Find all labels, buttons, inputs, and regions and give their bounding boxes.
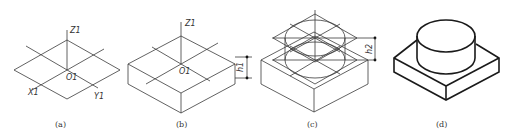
label-x1: X1 bbox=[27, 88, 39, 97]
dim-arrow-top bbox=[246, 56, 249, 59]
box-front-left-top bbox=[394, 58, 446, 86]
box-sides bbox=[261, 60, 368, 112]
dim-arrow-bottom bbox=[246, 77, 249, 80]
panel-b: Z1 O1 h1 (b) bbox=[128, 19, 252, 129]
panel-c: h2 (c) bbox=[261, 10, 376, 129]
cylinder-top bbox=[417, 20, 475, 52]
centerline-y bbox=[32, 49, 104, 90]
centerline-x bbox=[26, 46, 98, 88]
caption-c: (c) bbox=[307, 120, 318, 129]
label-z1: Z1 bbox=[184, 19, 196, 28]
caption-b: (b) bbox=[176, 120, 187, 129]
box-front-right-top bbox=[446, 58, 499, 86]
cylinder-body bbox=[417, 36, 475, 74]
caption-a: (a) bbox=[55, 120, 66, 129]
panel-d: (d) bbox=[394, 20, 499, 129]
label-z1: Z1 bbox=[69, 26, 81, 35]
label-o1: O1 bbox=[179, 67, 190, 76]
caption-d: (d) bbox=[436, 120, 447, 129]
label-h2: h2 bbox=[365, 44, 374, 54]
label-o1: O1 bbox=[66, 73, 77, 82]
label-y1: Y1 bbox=[94, 92, 104, 101]
panel-a: Z1 O1 X1 Y1 (a) bbox=[14, 26, 120, 129]
label-h1: h1 bbox=[236, 62, 245, 72]
isometric-drawing-figure: Z1 O1 X1 Y1 (a) Z1 O1 h1 (b) bbox=[0, 0, 512, 139]
